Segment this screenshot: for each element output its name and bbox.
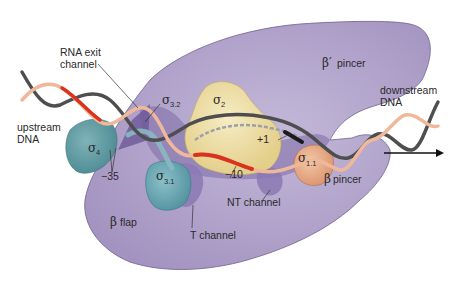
svg-text:3.2: 3.2 — [170, 100, 180, 109]
svg-text:σ: σ — [156, 169, 164, 183]
label-rna-exit-channel-1: RNA exit — [60, 46, 101, 58]
label-plus-1: +1 — [257, 133, 269, 145]
label-beta-flap: flap — [120, 216, 137, 228]
svg-text:2: 2 — [221, 100, 225, 109]
svg-text:σ: σ — [298, 151, 306, 165]
label-t-channel: T channel — [190, 229, 236, 241]
label-beta-prime-pincer-symbol: β′ — [322, 56, 332, 70]
label-upstream-dna-2: DNA — [17, 133, 39, 145]
label-rna-exit-channel-2: channel — [60, 58, 97, 70]
rnap-holoenzyme-diagram: RNA exit channel upstream DNA downstream… — [0, 0, 454, 299]
label-minus-10: −10 — [225, 168, 243, 180]
label-nt-channel: NT channel — [227, 196, 281, 208]
svg-text:σ: σ — [88, 141, 96, 155]
leader-rna-exit — [98, 64, 138, 108]
svg-text:4: 4 — [96, 148, 100, 157]
label-beta-pincer: pincer — [333, 173, 362, 185]
svg-text:σ: σ — [213, 93, 221, 107]
label-beta-flap-symbol: β — [110, 215, 117, 229]
label-beta-pincer-symbol: β — [324, 172, 331, 186]
label-beta-prime-pincer: pincer — [337, 57, 366, 69]
svg-text:σ: σ — [162, 93, 170, 107]
label-minus-35: −35 — [101, 170, 119, 182]
svg-text:1.1: 1.1 — [306, 159, 316, 168]
svg-text:3.1: 3.1 — [164, 177, 174, 186]
label-upstream-dna-1: upstream — [17, 121, 61, 133]
arrow-head-icon — [436, 149, 444, 157]
label-downstream-dna-2: DNA — [380, 96, 402, 108]
label-downstream-dna-1: downstream — [380, 84, 437, 96]
